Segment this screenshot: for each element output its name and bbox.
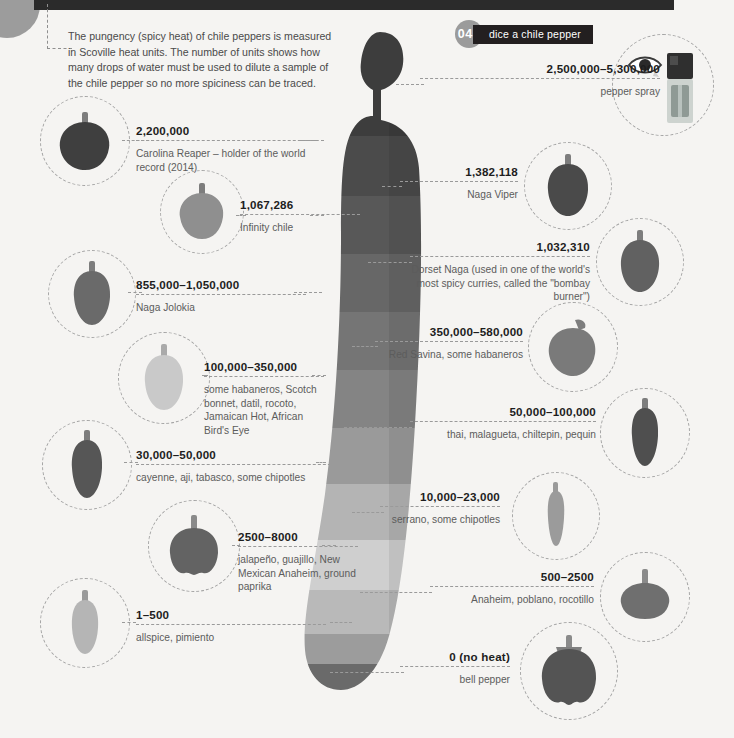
rocotillo-icon — [615, 569, 675, 625]
rule-red-savina — [375, 341, 523, 342]
icon-circle-thai-group — [600, 388, 690, 478]
connector-pepper-spray — [396, 84, 424, 85]
desc-serrano-group: serrano, some chipotles — [380, 513, 500, 527]
connector-habaneros-group — [312, 375, 326, 376]
connector-red-savina — [352, 346, 378, 347]
connector-bell-pepper — [330, 672, 404, 673]
desc-carolina-reaper: Carolina Reaper – holder of the world re… — [136, 147, 316, 174]
label-red-savina: 350,000–580,000 Red Savina, some habaner… — [375, 325, 523, 362]
label-pepper-spray: 2,500,000–5,300,000 pepper spray — [420, 62, 660, 99]
label-anaheim-group: 500–2500 Anaheim, poblano, rocotillo — [430, 570, 594, 607]
bell-pepper-icon — [165, 515, 223, 577]
label-habaneros-group: 100,000–350,000 some habaneros, Scotch b… — [204, 360, 324, 437]
icon-circle-allspice-group — [40, 578, 130, 668]
chile-pepper-icon — [543, 154, 593, 218]
value-carolina-reaper: 2,200,000 — [136, 124, 316, 137]
chile-pepper-icon — [140, 344, 188, 412]
value-serrano-group: 10,000–23,000 — [380, 490, 500, 503]
leader-allspice-group — [122, 622, 136, 623]
icon-circle-bell-pepper — [520, 622, 618, 720]
desc-bell-pepper: bell pepper — [400, 673, 510, 687]
chile-pepper-icon — [65, 590, 105, 656]
chile-pepper-icon — [69, 261, 115, 327]
value-red-savina: 350,000–580,000 — [375, 325, 523, 338]
icon-circle-infinity-chile — [160, 170, 244, 254]
label-dorset-naga: 1,032,310 Dorset Naga (used in one of th… — [410, 240, 590, 304]
connector-naga-viper — [382, 186, 402, 187]
infographic-page: 045 dice a chile pepper The pungency (sp… — [0, 0, 734, 738]
icon-circle-habaneros-group — [118, 332, 210, 424]
desc-naga-jolokia: Naga Jolokia — [136, 301, 306, 315]
desc-habaneros-group: some habaneros, Scotch bonnet, datil, ro… — [204, 383, 324, 437]
label-jalapeno-group: 2500–8000 jalapeño, guajillo, New Mexica… — [238, 530, 358, 594]
icon-circle-jalapeno-group — [148, 500, 240, 592]
rule-dorset-naga — [410, 256, 590, 257]
chile-pepper-icon — [57, 110, 113, 172]
value-jalapeno-group: 2500–8000 — [238, 530, 358, 543]
desc-allspice-group: allspice, pimiento — [136, 631, 326, 645]
habanero-icon — [545, 316, 601, 378]
icon-circle-serrano-group — [512, 472, 600, 560]
connector-infinity-chile — [310, 215, 324, 216]
rule-carolina-reaper — [136, 140, 316, 141]
serrano-icon — [541, 482, 571, 550]
label-allspice-group: 1–500 allspice, pimiento — [136, 608, 326, 645]
connector-anaheim-group — [360, 592, 432, 593]
connector-allspice-group — [330, 622, 352, 623]
connector-serrano-group — [352, 512, 384, 513]
value-naga-viper: 1,382,118 — [400, 165, 518, 178]
desc-pepper-spray: pepper spray — [420, 85, 660, 99]
desc-dorset-naga: Dorset Naga (used in one of the world's … — [410, 263, 590, 304]
connector-carolina-reaper — [300, 140, 324, 141]
label-naga-viper: 1,382,118 Naga Viper — [400, 165, 518, 202]
label-infinity-chile: 1,067,286 Infinity chile — [240, 198, 360, 235]
value-naga-jolokia: 855,000–1,050,000 — [136, 278, 306, 291]
label-bell-pepper: 0 (no heat) bell pepper — [400, 650, 510, 687]
rule-serrano-group — [380, 506, 500, 507]
icon-circle-dorset-naga — [596, 218, 684, 306]
rule-jalapeno-group — [238, 546, 358, 547]
desc-jalapeno-group: jalapeño, guajillo, New Mexican Anaheim,… — [238, 553, 358, 594]
desc-naga-viper: Naga Viper — [400, 188, 518, 202]
rule-anaheim-group — [430, 586, 594, 587]
rule-thai-group — [410, 421, 596, 422]
desc-infinity-chile: Infinity chile — [240, 221, 360, 235]
connector-thai-group — [344, 427, 412, 428]
connector-cayenne-group — [316, 462, 326, 463]
rule-infinity-chile — [240, 214, 360, 215]
value-allspice-group: 1–500 — [136, 608, 326, 621]
connector-naga-jolokia — [294, 292, 322, 293]
rule-habaneros-group — [204, 376, 324, 377]
chile-pepper-icon — [67, 430, 107, 500]
value-thai-group: 50,000–100,000 — [410, 405, 596, 418]
desc-anaheim-group: Anaheim, poblano, rocotillo — [430, 593, 594, 607]
desc-thai-group: thai, malagueta, chiltepin, pequin — [410, 428, 596, 442]
chile-pepper-icon — [626, 398, 664, 468]
value-cayenne-group: 30,000–50,000 — [136, 448, 336, 461]
icon-circle-anaheim-group — [600, 552, 690, 642]
bell-pepper-icon — [536, 635, 602, 707]
value-bell-pepper: 0 (no heat) — [400, 650, 510, 663]
label-thai-group: 50,000–100,000 thai, malagueta, chiltepi… — [410, 405, 596, 442]
connector-dorset-naga — [368, 262, 412, 263]
rule-bell-pepper — [400, 666, 510, 667]
value-dorset-naga: 1,032,310 — [410, 240, 590, 253]
rule-naga-viper — [400, 181, 518, 182]
connector-jalapeno-group — [322, 545, 336, 546]
value-anaheim-group: 500–2500 — [430, 570, 594, 583]
chile-pepper-icon — [175, 183, 229, 241]
label-serrano-group: 10,000–23,000 serrano, some chipotles — [380, 490, 500, 527]
label-carolina-reaper: 2,200,000 Carolina Reaper – holder of th… — [136, 124, 316, 174]
value-pepper-spray: 2,500,000–5,300,000 — [420, 62, 660, 75]
value-infinity-chile: 1,067,286 — [240, 198, 360, 211]
icon-circle-naga-jolokia — [48, 250, 136, 338]
icon-circle-cayenne-group — [42, 420, 132, 510]
icon-circle-red-savina — [528, 302, 618, 392]
rule-cayenne-group — [136, 464, 336, 465]
desc-cayenne-group: cayenne, aji, tabasco, some chipotles — [136, 471, 336, 485]
top-bar-decoration — [34, 0, 674, 10]
chile-pepper-icon — [616, 230, 664, 294]
icon-circle-carolina-reaper — [40, 96, 130, 186]
label-naga-jolokia: 855,000–1,050,000 Naga Jolokia — [136, 278, 306, 315]
rule-allspice-group — [136, 624, 326, 625]
